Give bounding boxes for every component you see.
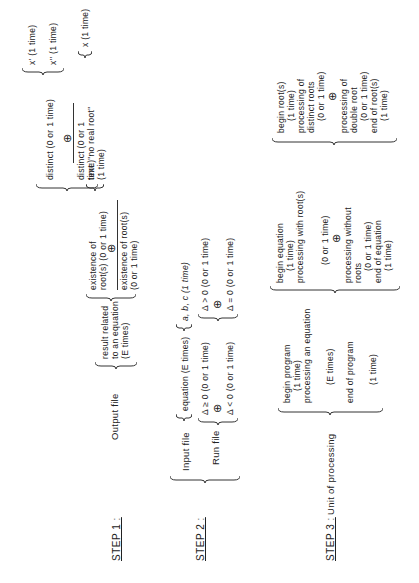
step-1-label: STEP 1 : xyxy=(112,517,122,561)
processing-double-2: double root xyxy=(349,87,359,133)
x-prime-text: x' (1 time) xyxy=(27,25,37,65)
unit-of-processing-label: Unit of processing xyxy=(326,434,336,515)
brace-output xyxy=(95,361,137,369)
brace-roots xyxy=(272,137,397,145)
x-double-prime-text: x'' (1 time) xyxy=(48,23,58,65)
oplus-icon: ⊕ xyxy=(212,300,223,309)
processing-distinct-2: distinct roots xyxy=(306,81,316,133)
brace-run xyxy=(198,417,238,425)
brace-equation xyxy=(176,323,192,331)
output-file-label: Output file xyxy=(110,393,120,440)
oplus-icon: ⊕ xyxy=(327,92,338,101)
processing-without-roots-count: (0 or 1 time) xyxy=(363,221,373,271)
begin-program: begin program xyxy=(282,344,292,403)
coefficients-text: a, b, c (1 time) xyxy=(180,262,190,321)
step-3-label: STEP 3 : xyxy=(326,517,336,561)
no-real-root-text: text: "no real root" (1 time) xyxy=(86,107,106,180)
brace-delta-ge xyxy=(198,313,238,321)
negation-bar xyxy=(73,103,74,163)
processing-equation: processing an equation xyxy=(302,309,312,404)
oplus-icon: ⊕ xyxy=(331,234,342,243)
brace-input xyxy=(176,413,192,421)
no-existence-roots-text: existence of root(s) (0 or 1 time) xyxy=(119,212,139,290)
end-program: end of program xyxy=(345,341,355,403)
processing-with-roots-count: (0 or 1 time) xyxy=(320,215,330,265)
oplus-icon: ⊕ xyxy=(106,244,117,253)
equation-text: equation (E times) xyxy=(180,337,190,411)
processing-equation-count: (E times) xyxy=(325,348,335,385)
oplus-icon: ⊕ xyxy=(212,404,223,413)
begin-equation-count: (1 time) xyxy=(285,240,295,271)
brace-unit xyxy=(278,407,383,415)
processing-double-count: (0 or 1 time) xyxy=(359,71,369,121)
brace-result xyxy=(86,293,136,301)
diagram-canvas: STEP 1 : STEP 2 : STEP 3 : Output file r… xyxy=(0,0,419,583)
brace-step2 xyxy=(170,475,240,483)
delta-ge-text: Δ ≥ 0 (0 or 1 time) xyxy=(200,342,210,415)
begin-equation: begin equation xyxy=(275,223,285,283)
processing-distinct: processing of xyxy=(296,79,306,133)
begin-program-count: (1 time) xyxy=(292,360,302,391)
negation-bar xyxy=(117,200,118,290)
processing-with-roots: processing with root(s) xyxy=(295,191,305,283)
delta-lt-text: Δ < 0 (0 or 1 time) xyxy=(225,341,235,415)
begin-roots-count: (1 time) xyxy=(286,90,296,121)
result-related-text: result related to an equation (E times) xyxy=(100,301,130,359)
end-equation-count: (1 time) xyxy=(383,240,393,271)
brace-equation-proc xyxy=(270,285,400,293)
run-file-label: Run file xyxy=(211,430,221,465)
processing-distinct-count: (0 or 1 time) xyxy=(316,71,326,121)
begin-roots: begin root(s) xyxy=(276,81,286,133)
end-roots: end of root(s) xyxy=(369,78,379,133)
oplus-icon: ⊕ xyxy=(62,134,73,143)
delta-gt-text: Δ > 0 (0 or 1 time) xyxy=(200,237,210,311)
brace-double xyxy=(78,50,92,58)
delta-eq-text: Δ = 0 (0 or 1 time) xyxy=(225,237,235,311)
end-equation: end of equation xyxy=(373,220,383,283)
brace-distinct xyxy=(22,67,64,75)
brace-no-root xyxy=(86,183,104,191)
input-file-label: Input file xyxy=(181,432,191,471)
distinct-text: distinct (0 or 1 time) xyxy=(45,99,55,180)
processing-without-roots-2: roots xyxy=(353,263,363,283)
processing-without-roots: processing without xyxy=(343,207,353,283)
end-program-count: (1 time) xyxy=(368,354,378,385)
end-roots-count: (1 time) xyxy=(379,90,389,121)
step-2-label: STEP 2 : xyxy=(196,517,206,561)
processing-double: processing of xyxy=(339,79,349,133)
x-single-text: x (1 time) xyxy=(80,9,90,47)
